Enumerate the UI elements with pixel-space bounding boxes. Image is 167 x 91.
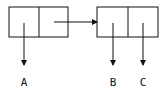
- box-pointer-diagram: A B C: [0, 0, 167, 91]
- label-c: C: [140, 76, 147, 89]
- label-b: B: [110, 76, 117, 89]
- label-a: A: [21, 76, 28, 89]
- pair-2-box: [97, 7, 158, 37]
